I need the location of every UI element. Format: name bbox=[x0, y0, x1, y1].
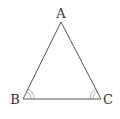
vertex-label-a: A bbox=[55, 6, 66, 21]
vertex-label-c: C bbox=[103, 92, 113, 107]
triangle-abc bbox=[23, 22, 101, 99]
triangle-diagram: A B C bbox=[0, 0, 120, 119]
vertex-label-b: B bbox=[10, 92, 20, 107]
